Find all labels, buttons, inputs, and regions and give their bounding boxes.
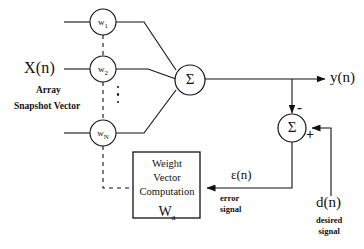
summing-junction-error-symbol: Σ	[283, 119, 301, 136]
input-vector-label: X(n)	[24, 60, 55, 76]
dn-line-up-and-left	[312, 128, 331, 196]
w2-to-sum-path	[116, 69, 176, 79]
desired-sub-line1: desired	[316, 215, 342, 226]
output-path	[205, 79, 325, 113]
desired-signal-label: d(n)	[316, 195, 341, 210]
weight-ellipsis-dots	[115, 86, 121, 108]
input-sublabel-array: Array	[36, 86, 61, 96]
w1-to-sum-path	[116, 22, 176, 70]
wN-to-sum-path	[116, 90, 176, 133]
input-sublabel-snapshot-vector: Snapshot Vector	[14, 102, 80, 112]
output-signal-label: y(n)	[330, 70, 355, 85]
box-line-weight: Weight	[134, 157, 200, 171]
summing-junction-output-symbol: Σ	[180, 71, 200, 88]
error-signal-label: ε(n)	[231, 168, 252, 181]
box-line-computation: Computation	[134, 185, 200, 199]
desired-signal-sublabel: desired signal	[316, 215, 342, 236]
desired-signal-path	[312, 128, 331, 196]
beamformer-diagram: X(n) Array Snapshot Vector w1 w2 wN Σ Σ …	[0, 0, 364, 249]
minus-sign-label: -	[297, 100, 302, 115]
weight-computation-box-text: Weight Vector Computation Wa	[134, 157, 200, 221]
dashed-wN-to-box	[103, 146, 133, 188]
box-symbol-wa: Wa	[134, 204, 200, 222]
plus-sign-label: +	[306, 128, 314, 142]
weight-to-sum-lines	[116, 22, 176, 133]
input-lines	[64, 22, 90, 133]
weight-node-label-w1: w1	[92, 17, 114, 30]
error-sub-line2: signal	[220, 204, 241, 215]
error-sub-line1: error	[220, 193, 241, 204]
error-signal-sublabel: error signal	[220, 193, 241, 216]
desired-sub-line2: signal	[316, 226, 342, 237]
box-line-vector: Vector	[134, 171, 200, 185]
weight-node-label-w2: w2	[92, 64, 114, 77]
weight-node-label-wN: wN	[92, 128, 114, 141]
